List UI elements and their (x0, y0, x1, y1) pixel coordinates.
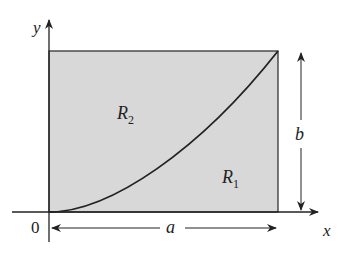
y-axis-label: y (31, 18, 41, 37)
origin-label: 0 (31, 218, 40, 237)
a-label: a (166, 217, 175, 237)
shaded-rectangle (49, 51, 278, 212)
area-diagram: y x 0 a b R2 R1 (0, 0, 342, 256)
x-axis-label: x (322, 221, 331, 240)
b-label: b (295, 124, 304, 144)
